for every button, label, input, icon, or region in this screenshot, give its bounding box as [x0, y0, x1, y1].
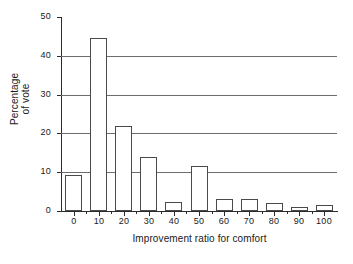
- x-minor-tick-5: [86, 211, 87, 214]
- bar-60: [216, 199, 233, 211]
- x-minor-tick-85: [287, 211, 288, 214]
- y-axis-title-line1: Percentage: [9, 49, 20, 149]
- x-minor-tick-25: [136, 211, 137, 214]
- x-minor-tick-35: [161, 211, 162, 214]
- bar-70: [241, 199, 258, 211]
- x-axis-title: Improvement ratio for comfort: [61, 233, 338, 245]
- bar-10: [90, 38, 107, 211]
- y-tick-label-40: 40: [25, 51, 51, 60]
- plot-area: [61, 17, 337, 211]
- bar-50: [191, 166, 208, 211]
- bar-0: [65, 175, 82, 211]
- bar-30: [140, 157, 157, 211]
- y-tick-label-30: 30: [25, 90, 51, 99]
- x-minor-tick-45: [186, 211, 187, 214]
- bar-20: [115, 126, 132, 211]
- x-minor-tick-15: [111, 211, 112, 214]
- y-tick-label-50: 50: [25, 12, 51, 21]
- x-minor-tick-75: [262, 211, 263, 214]
- bar-80: [266, 203, 283, 211]
- x-minor-tick-65: [237, 211, 238, 214]
- x-minor-tick-55: [212, 211, 213, 214]
- x-minor-tick-95: [312, 211, 313, 214]
- y-tick-label-20: 20: [25, 128, 51, 137]
- y-tick-label-0: 0: [25, 206, 51, 215]
- y-tick-label-10: 10: [25, 167, 51, 176]
- chart-figure: Percentage of vote 01020304050 010203040…: [0, 0, 353, 264]
- x-tick-label-100: 100: [309, 216, 339, 226]
- bar-40: [165, 202, 182, 211]
